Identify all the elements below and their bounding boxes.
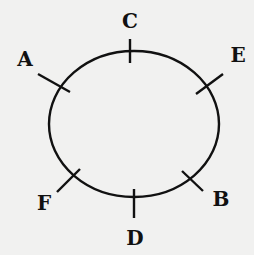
- tick-mark-a: [38, 74, 70, 92]
- point-label-f: F: [37, 191, 51, 215]
- tick-mark-f: [57, 169, 80, 192]
- circle-diagram: C E B D F A: [0, 0, 254, 255]
- point-label-d: D: [126, 226, 143, 250]
- point-label-e: E: [230, 43, 245, 67]
- point-label-b: B: [213, 187, 230, 211]
- point-label-c: C: [122, 9, 138, 33]
- point-label-a: A: [16, 47, 33, 71]
